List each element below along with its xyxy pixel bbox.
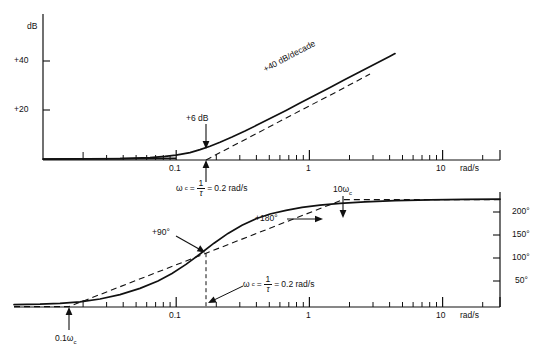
magnitude-ytick-label-40: +40 — [14, 56, 28, 65]
phase-xtick-label-0.1: 0.1 — [169, 311, 181, 320]
magnitude-6db-label: +6 dB — [186, 114, 208, 123]
magnitude-y-axis-title: dB — [27, 22, 37, 31]
plot-canvas — [0, 0, 537, 357]
magnitude-xtick-label-0.1: 0.1 — [169, 164, 181, 173]
fraction-denominator: τ — [197, 189, 206, 198]
magnitude-xtick-label-1: 1 — [306, 164, 311, 173]
phase-01wc-arrow — [66, 307, 73, 330]
omega-symbol: ω — [176, 184, 183, 193]
phase-ytick-label-50: 50° — [515, 276, 528, 285]
phase-10wc-subscript: c — [349, 190, 352, 196]
phase-180-leader — [287, 216, 323, 222]
phase-10wc-label: 10ωc — [333, 185, 352, 196]
magnitude-ytick-label-20: +20 — [14, 105, 28, 114]
phase-xtick-label-10: 10 — [436, 311, 445, 320]
magnitude-axes — [43, 14, 500, 160]
phase-ytick-label-150: 150° — [512, 230, 530, 239]
magnitude-exact-curve — [43, 54, 395, 159]
one-over-tau-fraction: 1 τ — [264, 275, 273, 294]
magnitude-x-unit-label: rad/s — [460, 164, 479, 173]
phase-180-degree-label: +180° — [255, 214, 278, 223]
bode-plot-figure: dB +40 +20 0.1 1 10 rad/s +40 dB/decade … — [0, 0, 537, 357]
corner-frequency-value: 0.2 rad/s — [214, 184, 247, 193]
equals-2: = — [274, 280, 279, 289]
magnitude-6db-arrow — [203, 124, 210, 149]
magnitude-asymptote-dashed — [206, 74, 370, 160]
equals-1: = — [190, 184, 195, 193]
equals-2: = — [207, 184, 212, 193]
phase-01wc-text: 0.1ω — [55, 333, 73, 343]
omega-subscript: c — [252, 281, 255, 287]
phase-01wc-label: 0.1ωc — [55, 334, 76, 345]
magnitude-low-asymptote — [43, 158, 176, 159]
phase-90-degree-label: +90° — [152, 228, 170, 237]
phase-01wc-subscript: c — [73, 339, 76, 345]
phase-corner-frequency-label: ωc = 1 τ = 0.2 rad/s — [243, 275, 314, 294]
magnitude-corner-frequency-label: ωc = 1 τ = 0.2 rad/s — [176, 179, 247, 198]
phase-x-ticks — [83, 297, 500, 307]
phase-xtick-label-1: 1 — [306, 311, 311, 320]
phase-x-unit-label: rad/s — [460, 311, 479, 320]
phase-10wc-text: 10ω — [333, 184, 349, 194]
phase-ytick-label-200: 200° — [512, 207, 530, 216]
corner-frequency-value: 0.2 rad/s — [281, 280, 314, 289]
magnitude-xtick-label-10: 10 — [436, 164, 445, 173]
phase-ytick-label-100: 100° — [512, 253, 530, 262]
omega-subscript: c — [185, 185, 188, 191]
one-over-tau-fraction: 1 τ — [197, 179, 206, 198]
omega-symbol: ω — [243, 280, 250, 289]
phase-corner-leader — [208, 286, 243, 303]
fraction-denominator: τ — [264, 285, 273, 294]
equals-1: = — [257, 280, 262, 289]
phase-90-leader — [176, 236, 205, 253]
